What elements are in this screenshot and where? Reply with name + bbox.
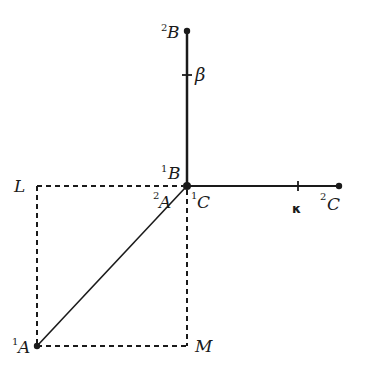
point-1A (34, 343, 40, 349)
label-1B: 1 B (161, 163, 181, 183)
label-1A-main: A (16, 337, 30, 357)
label-2C-sup: 2 (320, 191, 326, 202)
point-origin (183, 182, 191, 190)
label-2C-main: C (327, 194, 340, 214)
label-M: M (194, 336, 213, 356)
label-L: L (13, 176, 25, 196)
point-2C (336, 183, 342, 189)
label-2A: 2 A (153, 190, 171, 212)
label-1B-main: B (167, 163, 181, 183)
label-beta: β (194, 64, 205, 85)
label-2A-main: A (157, 192, 171, 212)
label-2B-main: B (166, 22, 180, 42)
point-2B (184, 28, 190, 34)
geometric-diagram: 2 B β 1 B 2 A 1 C κ 2 C L 1 A M (0, 0, 369, 381)
label-1C-main: C (197, 192, 210, 212)
label-kappa: κ (292, 201, 301, 216)
label-1C: 1 C (191, 190, 210, 212)
label-1B-sup: 1 (161, 163, 167, 174)
label-2C: 2 C (320, 191, 340, 214)
label-2B: 2 B (161, 22, 180, 42)
label-1A: 1 A (12, 336, 30, 357)
